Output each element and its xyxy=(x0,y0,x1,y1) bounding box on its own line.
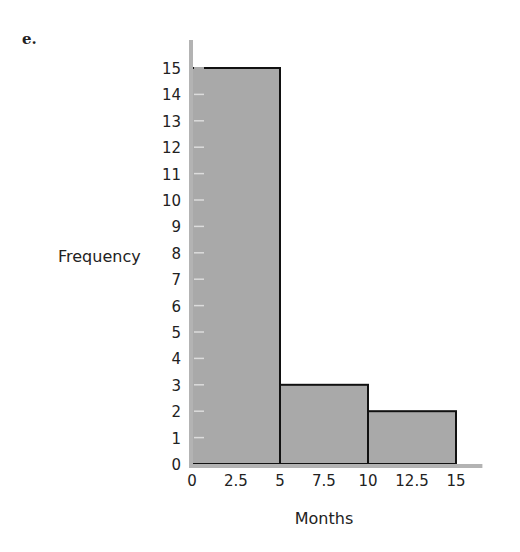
x-tick-label: 15 xyxy=(446,472,465,490)
x-tick-label: 5 xyxy=(275,472,285,490)
x-tick-label: 0 xyxy=(187,472,197,490)
y-tick-label: 0 xyxy=(171,456,181,474)
y-tick-label: 4 xyxy=(171,350,181,368)
histogram-bar-0-5 xyxy=(192,68,280,464)
y-tick-label: 6 xyxy=(171,298,181,316)
y-tick-label: 5 xyxy=(171,324,181,342)
y-tick-label: 1 xyxy=(171,430,181,448)
y-tick-label: 12 xyxy=(162,139,181,157)
y-tick-label: 13 xyxy=(162,113,181,131)
y-tick-label: 14 xyxy=(162,86,181,104)
x-tick-label: 2.5 xyxy=(224,472,248,490)
y-tick-label: 11 xyxy=(162,166,181,184)
y-tick-label: 10 xyxy=(162,192,181,210)
y-tick-label: 8 xyxy=(171,245,181,263)
y-axis-title: Frequency xyxy=(58,247,141,266)
x-tick-label: 10 xyxy=(358,472,377,490)
x-axis-ticks: 02.557.51012.515 xyxy=(187,472,465,490)
y-tick-label: 3 xyxy=(171,377,181,395)
histogram-bar-10-15 xyxy=(368,411,456,464)
histogram-chart: 0123456789101112131415 02.557.51012.515 … xyxy=(0,0,520,552)
histogram-bars xyxy=(192,68,456,464)
y-axis-line xyxy=(189,40,193,467)
y-tick-label: 15 xyxy=(162,60,181,78)
histogram-bar-5-10 xyxy=(280,385,368,464)
y-tick-label: 7 xyxy=(171,271,181,289)
x-axis-line xyxy=(189,464,482,468)
y-tick-label: 9 xyxy=(171,218,181,236)
x-tick-label: 12.5 xyxy=(395,472,428,490)
x-tick-label: 7.5 xyxy=(312,472,336,490)
y-tick-label: 2 xyxy=(171,403,181,421)
x-axis-title: Months xyxy=(295,509,353,528)
